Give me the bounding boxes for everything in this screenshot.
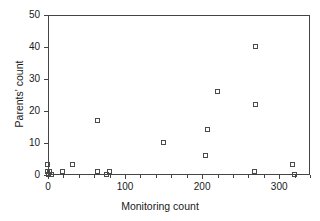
x-axis-tick bbox=[264, 175, 265, 178]
x-axis-tick bbox=[279, 175, 280, 179]
y-axis-tick bbox=[44, 47, 48, 48]
x-axis-tick bbox=[63, 175, 64, 178]
data-point-marker bbox=[253, 102, 258, 107]
data-point-marker bbox=[253, 44, 258, 49]
x-axis-tick-label: 100 bbox=[105, 181, 145, 192]
data-point-marker bbox=[49, 172, 54, 177]
y-axis-tick bbox=[44, 143, 48, 144]
x-axis-tick bbox=[187, 175, 188, 178]
data-point-marker bbox=[252, 169, 257, 174]
data-point-marker bbox=[95, 169, 100, 174]
y-axis-tick bbox=[44, 111, 48, 112]
data-point-marker bbox=[107, 169, 112, 174]
x-axis-tick-label: 200 bbox=[182, 181, 222, 192]
data-point-marker bbox=[60, 169, 65, 174]
x-axis-tick bbox=[295, 175, 296, 178]
y-axis-tick-label: 0 bbox=[14, 170, 40, 180]
x-axis-tick bbox=[202, 175, 203, 179]
data-point-marker bbox=[205, 127, 210, 132]
data-point-marker bbox=[203, 153, 208, 158]
x-axis-tick bbox=[94, 175, 95, 178]
x-axis-tick bbox=[79, 175, 80, 178]
x-axis-tick bbox=[125, 175, 126, 179]
x-axis-tick bbox=[140, 175, 141, 178]
x-axis-title: Monitoring count bbox=[0, 200, 320, 212]
data-point-marker bbox=[290, 162, 295, 167]
y-axis-tick-label: 50 bbox=[14, 10, 40, 20]
y-axis-tick bbox=[44, 79, 48, 80]
x-axis-tick bbox=[233, 175, 234, 178]
x-axis-tick bbox=[156, 175, 157, 178]
x-axis-tick bbox=[310, 175, 311, 178]
scatter-chart-figure: 010020030001020304050 Monitoring count P… bbox=[0, 0, 320, 221]
plot-area bbox=[48, 15, 310, 175]
data-point-marker bbox=[215, 89, 220, 94]
x-axis-tick-label: 0 bbox=[28, 181, 68, 192]
y-axis-tick bbox=[44, 175, 48, 176]
data-point-marker bbox=[161, 140, 166, 145]
data-point-marker bbox=[95, 118, 100, 123]
data-point-marker bbox=[45, 162, 50, 167]
x-axis-tick-label: 300 bbox=[259, 181, 299, 192]
x-axis-tick bbox=[218, 175, 219, 178]
x-axis-tick bbox=[248, 175, 249, 178]
data-point-marker bbox=[70, 162, 75, 167]
y-axis-title: Parents' count bbox=[13, 44, 25, 144]
x-axis-tick bbox=[48, 175, 49, 179]
y-axis-tick bbox=[44, 15, 48, 16]
x-axis-tick bbox=[110, 175, 111, 178]
x-axis-tick bbox=[171, 175, 172, 178]
